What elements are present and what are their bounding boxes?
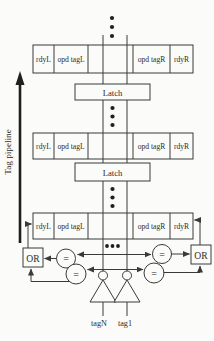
or-gate-left: OR	[23, 248, 43, 267]
tagN-label: tagN	[91, 319, 107, 328]
pipeline-label: Tag pipeline	[3, 129, 13, 175]
entry-row-3-labels: rdyL opd tagL opd tagR rdyR	[36, 222, 190, 231]
row3-opd-tagR: opd tagR	[138, 222, 167, 231]
wire-or-to-rdyR	[195, 220, 201, 245]
or-right-label: OR	[194, 250, 208, 261]
driver-right-triangle-icon	[114, 280, 140, 302]
driver-left-triangle-icon	[90, 280, 116, 302]
eq-right-upper: =	[159, 249, 165, 260]
latch-2: Latch	[75, 163, 150, 181]
row2-opd-tagL: opd tagL	[57, 142, 85, 151]
dots-horizontal	[105, 244, 109, 248]
row2-rdyL: rdyL	[36, 142, 51, 151]
comparators-right: = =	[144, 245, 172, 284]
row3-opd-tagL: opd tagL	[57, 222, 85, 231]
tag1-label: tag1	[118, 319, 132, 328]
eq-right-lower: =	[151, 268, 157, 279]
wire-cmp-lower-to-or-left	[31, 269, 70, 282]
tag-driver-labels: tagN tag1	[91, 319, 132, 328]
or-left-label: OR	[26, 253, 40, 264]
driver-left-bubble-icon	[99, 271, 108, 280]
latch1-label: Latch	[103, 88, 123, 98]
pipeline-arrowhead-icon	[16, 71, 25, 85]
entry-row-2-labels: rdyL opd tagL opd tagR rdyR	[36, 142, 190, 151]
eq-left-lower: =	[73, 269, 79, 280]
tag-pipeline-figure: Tag pipeline rdyL opd tagL opd tagR rdyR…	[0, 0, 214, 341]
row1-opd-tagR: opd tagR	[138, 55, 167, 64]
dots-mid2	[110, 187, 114, 191]
row1-rdyL: rdyL	[36, 55, 51, 64]
row3-rdyR: rdyR	[174, 222, 190, 231]
row1-opd-tagL: opd tagL	[57, 55, 85, 64]
tag-bus-lines	[103, 35, 127, 271]
entry-row-1-labels: rdyL opd tagL opd tagR rdyR	[36, 55, 190, 64]
latch2-label: Latch	[103, 168, 123, 178]
eq-left-upper: =	[63, 253, 69, 264]
dots-mid1	[110, 106, 114, 110]
wire-or-to-rdyL	[28, 224, 32, 248]
latch-1: Latch	[75, 84, 150, 100]
dots-top	[110, 16, 114, 20]
tag-drivers	[90, 271, 140, 316]
wire-cmp-lower-to-or-right	[164, 266, 201, 273]
row1-rdyR: rdyR	[174, 55, 190, 64]
or-gate-right: OR	[191, 245, 211, 264]
row2-opd-tagR: opd tagR	[138, 142, 167, 151]
row2-rdyR: rdyR	[174, 142, 190, 151]
driver-right-bubble-icon	[123, 271, 132, 280]
row3-rdyL: rdyL	[36, 222, 51, 231]
wakeup-logic-diagram: Tag pipeline rdyL opd tagL opd tagR rdyR…	[0, 0, 214, 341]
tag-pipeline-arrow: Tag pipeline	[3, 71, 25, 243]
